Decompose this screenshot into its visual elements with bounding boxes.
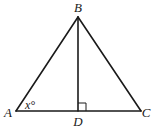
vertex-label-d: D (72, 114, 83, 129)
segment-bc (78, 17, 141, 111)
right-angle-marker (78, 103, 86, 111)
vertex-label-a: A (3, 105, 12, 120)
segment-ab (16, 17, 78, 111)
triangle-diagram: B A C D x° (0, 0, 153, 129)
angle-label-x: x° (24, 98, 35, 112)
vertex-label-c: C (142, 105, 151, 120)
vertex-label-b: B (74, 0, 82, 15)
